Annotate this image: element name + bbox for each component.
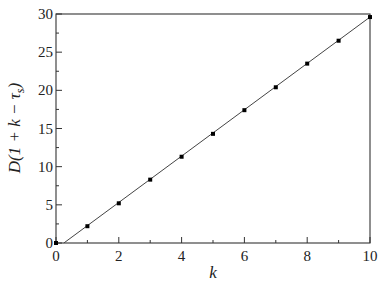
data-point-marker: [180, 155, 184, 159]
y-tick-label: 10: [38, 159, 53, 175]
data-point-marker: [337, 39, 341, 43]
x-axis-label: k: [209, 263, 217, 282]
data-point-marker: [117, 201, 121, 205]
fit-line-path: [64, 17, 370, 243]
data-points: [54, 15, 372, 245]
data-point-marker: [368, 15, 372, 19]
plot-border: [56, 14, 370, 243]
data-point-marker: [148, 178, 152, 182]
x-tick-label: 2: [115, 248, 123, 264]
data-point-marker: [85, 224, 89, 228]
chart: 0246810 051015202530 k D(1 + k − τs): [0, 0, 385, 289]
y-tick-label: 20: [38, 82, 53, 98]
x-tick-label: 10: [363, 248, 378, 264]
plot-frame: [56, 14, 370, 243]
y-tick-label: 25: [38, 44, 53, 60]
y-tick-label: 5: [46, 197, 54, 213]
x-axis-ticks: 0246810: [52, 237, 377, 264]
y-tick-label: 30: [38, 6, 53, 22]
data-point-marker: [242, 108, 246, 112]
y-tick-label: 15: [38, 121, 53, 137]
x-tick-label: 6: [241, 248, 249, 264]
data-point-marker: [54, 241, 58, 245]
x-tick-label: 8: [303, 248, 311, 264]
fit-line: [64, 17, 370, 243]
data-point-marker: [274, 85, 278, 89]
x-tick-label: 4: [178, 248, 186, 264]
y-tick-label: 0: [46, 235, 54, 251]
y-axis-ticks: 051015202530: [38, 6, 62, 251]
data-point-marker: [305, 62, 309, 66]
y-axis-label: D(1 + k − τs): [5, 82, 27, 174]
x-tick-label: 0: [52, 248, 60, 264]
data-point-marker: [211, 132, 215, 136]
